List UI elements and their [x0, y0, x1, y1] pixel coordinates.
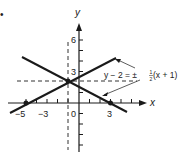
line-pair-diagram: • y x: [0, 0, 181, 161]
y-axis-arrow-icon: [76, 23, 82, 31]
x-tick-neg5: −5: [15, 109, 25, 119]
bullet-marker: •: [0, 9, 4, 20]
x-tick-neg3: −3: [38, 109, 48, 119]
equation-lhs: y − 2 = ±: [104, 70, 137, 80]
x-axis-arrow-icon: [139, 100, 147, 106]
equation-rhs: (x + 1): [153, 70, 177, 80]
y-tick-6: 6: [71, 35, 76, 45]
point-neg5-0: [24, 101, 29, 106]
equation-label: y − 2 = ± 1 2 (x + 1): [104, 69, 177, 82]
point-neg1-2: [66, 79, 71, 84]
y-tick-3: 3: [71, 67, 76, 77]
y-axis-label: y: [74, 7, 81, 18]
x-axis-label: x: [149, 97, 156, 108]
leader-line-lower: [104, 80, 140, 95]
leader-arrow-lower-icon: [102, 92, 108, 96]
x-tick-3: 3: [107, 109, 112, 119]
point-3-0: [108, 101, 113, 106]
leader-line-upper: [118, 60, 135, 68]
x-tick-0: 0: [71, 109, 76, 119]
